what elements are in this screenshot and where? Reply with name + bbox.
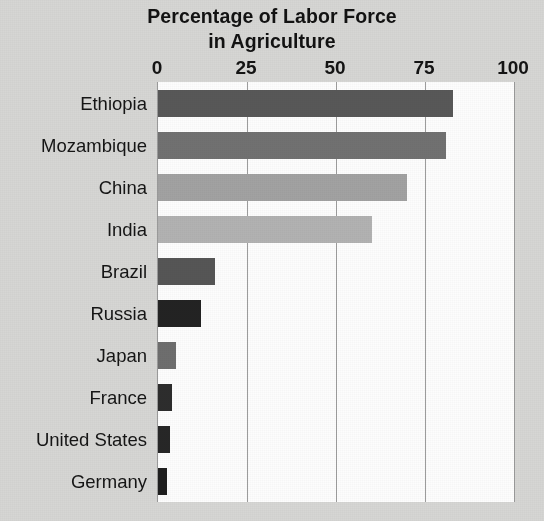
category-label-russia: Russia (90, 300, 147, 327)
bar-france (158, 384, 172, 411)
category-label-france: France (89, 384, 147, 411)
y-axis-category-labels: EthiopiaMozambiqueChinaIndiaBrazilRussia… (0, 82, 153, 502)
x-tick-label-75: 75 (413, 57, 434, 79)
category-label-brazil: Brazil (101, 258, 147, 285)
bar-brazil (158, 258, 215, 285)
source-caption (0, 508, 544, 521)
x-tick-label-50: 50 (324, 57, 345, 79)
bar-ethiopia (158, 90, 453, 117)
category-label-germany: Germany (71, 468, 147, 495)
category-label-united-states: United States (36, 426, 147, 453)
bar-mozambique (158, 132, 446, 159)
category-label-china: China (99, 174, 147, 201)
bar-japan (158, 342, 176, 369)
bars-layer (158, 82, 514, 502)
x-tick-label-100: 100 (497, 57, 529, 79)
chart-title-line-2: in Agriculture (0, 29, 544, 54)
category-label-ethiopia: Ethiopia (80, 90, 147, 117)
category-label-india: India (107, 216, 147, 243)
x-tick-label-25: 25 (235, 57, 256, 79)
bar-chart-figure: Percentage of Labor Force in Agriculture… (0, 0, 544, 521)
category-label-japan: Japan (97, 342, 147, 369)
chart-title-line-1: Percentage of Labor Force (0, 4, 544, 29)
chart-title: Percentage of Labor Force in Agriculture (0, 4, 544, 55)
bar-germany (158, 468, 167, 495)
x-axis-tick-labels: 0255075100 (0, 57, 544, 81)
x-tick-label-0: 0 (152, 57, 163, 79)
bar-india (158, 216, 372, 243)
category-label-mozambique: Mozambique (41, 132, 147, 159)
bar-united-states (158, 426, 170, 453)
bar-china (158, 174, 407, 201)
plot-area (157, 82, 515, 502)
bar-russia (158, 300, 201, 327)
